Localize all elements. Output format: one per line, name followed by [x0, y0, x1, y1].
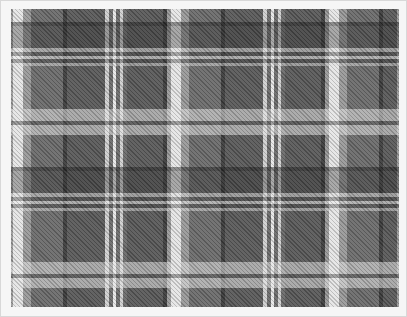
tartan-pattern: [11, 9, 399, 307]
image-frame: [0, 0, 407, 317]
twill-texture: [11, 9, 399, 307]
